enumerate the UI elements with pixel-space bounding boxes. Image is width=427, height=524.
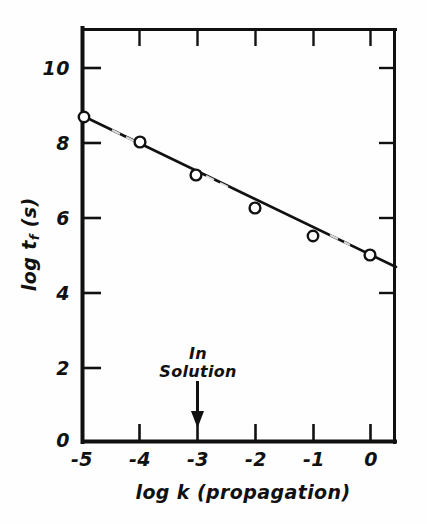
data-point-1 <box>79 112 89 122</box>
x-axis-title: log k (propagation) <box>93 481 393 503</box>
x-tick-label-neg3: -3 <box>178 448 218 470</box>
annotation-in-solution-line1: In <box>158 344 238 363</box>
y-tick-label-10: 10 <box>36 57 70 79</box>
x-tick-label-neg2: -2 <box>236 448 276 470</box>
y-axis-title-prefix: log t <box>18 240 40 291</box>
fit-line-group <box>83 116 396 267</box>
annotation-in-solution-line2: Solution <box>150 362 246 381</box>
axis-frame <box>81 26 397 444</box>
x-tick-label-neg5: -5 <box>62 448 102 470</box>
chart-figure: 10 8 6 4 2 0 -5 -4 -3 -2 -1 0 log tf (s)… <box>0 0 427 524</box>
y-axis-title-suffix: (s) <box>18 197 40 234</box>
data-point-2 <box>135 137 146 148</box>
x-axis-ticks-top <box>140 31 371 46</box>
y-tick-label-2: 2 <box>36 357 70 379</box>
x-axis-ticks <box>140 424 371 440</box>
y-axis-title: log tf (s) <box>18 174 43 314</box>
data-point-5 <box>308 231 318 241</box>
data-point-6 <box>365 250 376 261</box>
y-tick-label-8: 8 <box>36 132 70 154</box>
x-tick-label-neg1: -1 <box>294 448 334 470</box>
in-solution-arrow-icon <box>191 381 204 428</box>
x-tick-label-neg4: -4 <box>120 448 160 470</box>
data-point-4 <box>250 203 261 214</box>
data-point-3 <box>191 170 202 181</box>
x-tick-label-0: 0 <box>351 448 391 470</box>
y-axis-title-subscript: f <box>27 234 42 240</box>
